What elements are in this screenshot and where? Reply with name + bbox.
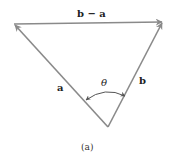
angle-theta-arc	[86, 92, 125, 100]
vector-b-arrow	[108, 23, 162, 127]
label-b: b	[139, 76, 146, 86]
vector-b-minus-a-arrow	[14, 22, 162, 24]
label-b-minus-a: b − a	[77, 9, 106, 19]
label-a: a	[57, 83, 63, 93]
figure-caption: (a)	[81, 143, 93, 152]
vector-a-arrow	[15, 25, 108, 127]
vector-triangle-diagram	[0, 0, 177, 160]
label-theta: θ	[101, 78, 107, 88]
vector-triangle-figure: b − a a b θ (a)	[0, 0, 177, 160]
